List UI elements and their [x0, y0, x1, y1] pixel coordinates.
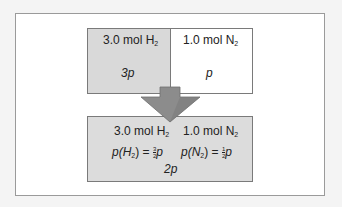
mixture-hydrogen-amount: 3.0 mol H2: [114, 124, 169, 138]
total-pressure: 2p: [164, 162, 177, 176]
nitrogen-partial-pressure: p(N2) = 12p: [181, 145, 232, 159]
mixture-nitrogen-amount: 1.0 mol N2: [183, 124, 238, 138]
hydrogen-partial-pressure: p(H2) = 32p: [112, 145, 163, 159]
